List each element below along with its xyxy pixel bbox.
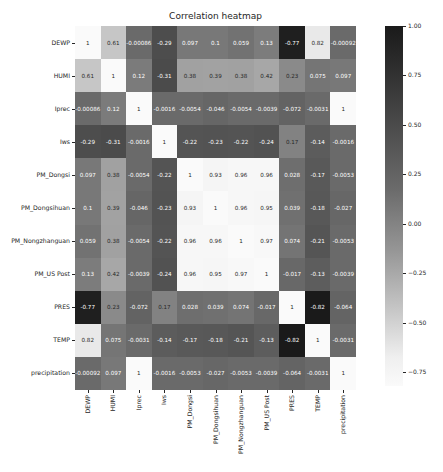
heatmap-cell: -0.0039: [126, 258, 152, 291]
colorbar-tick-label: −0.75: [408, 368, 426, 375]
y-tick-label: TEMP: [53, 336, 70, 343]
x-tick-label: PRES: [288, 395, 295, 411]
heatmap-cell: -0.064: [279, 357, 305, 390]
heatmap-cell: -0.17: [305, 158, 331, 191]
heatmap-cell: 0.12: [101, 92, 127, 125]
heatmap-cell: -0.00092: [75, 357, 101, 390]
heatmap-cell: -0.0053: [330, 158, 356, 191]
heatmap-cell: 0.38: [101, 158, 127, 191]
y-tick-label: PRES: [54, 303, 70, 310]
heatmap-cell: 0.38: [228, 59, 254, 92]
colorbar-tick: [403, 174, 406, 175]
heatmap-cell: 0.95: [254, 191, 280, 224]
heatmap-cell: -0.027: [330, 191, 356, 224]
colorbar-tick: [403, 372, 406, 373]
heatmap-cell: 0.039: [279, 191, 305, 224]
x-tick-label: PM_Dongsihuan: [212, 395, 219, 444]
heatmap-cell: -0.00086: [75, 92, 101, 125]
heatmap-cell: 0.097: [330, 59, 356, 92]
y-tick-label: PM_US Post: [34, 270, 70, 277]
x-tick-label: precipitation: [339, 395, 346, 434]
y-tick-label: precipitation: [31, 369, 70, 376]
colorbar-tick: [403, 125, 406, 126]
x-tick: [241, 390, 242, 393]
heatmap-cell: -0.0031: [126, 324, 152, 357]
heatmap-cell: -0.0039: [254, 92, 280, 125]
x-tick: [139, 390, 140, 393]
heatmap-cell: -0.31: [101, 125, 127, 158]
colorbar-tick: [403, 75, 406, 76]
heatmap-cell: -0.017: [254, 291, 280, 324]
heatmap-cell: -0.0031: [330, 324, 356, 357]
y-tick-label: PM_Dongsihuan: [21, 204, 70, 211]
heatmap-cell: 0.1: [203, 26, 229, 59]
heatmap-cell: -0.027: [203, 357, 229, 390]
heatmap-cell: 0.42: [101, 258, 127, 291]
heatmap-cell: -0.82: [279, 324, 305, 357]
colorbar-tick: [403, 323, 406, 324]
heatmap-cell: 1: [126, 92, 152, 125]
heatmap-cell: 0.12: [126, 59, 152, 92]
heatmap-cell: -0.17: [177, 324, 203, 357]
heatmap-cell: 0.039: [203, 291, 229, 324]
heatmap-cell: -0.13: [305, 258, 331, 291]
heatmap-cell: 0.61: [101, 26, 127, 59]
x-tick: [88, 390, 89, 393]
heatmap-cell: -0.017: [279, 258, 305, 291]
heatmap-cell: 0.95: [203, 258, 229, 291]
heatmap-cell: 0.17: [279, 125, 305, 158]
heatmap-cell: -0.046: [126, 191, 152, 224]
heatmap-cell: 0.074: [279, 225, 305, 258]
heatmap-cell: -0.82: [305, 291, 331, 324]
heatmap-cell: 0.96: [177, 258, 203, 291]
heatmap-cell: 0.96: [203, 225, 229, 258]
x-tick-label: TEMP: [314, 395, 321, 412]
heatmap-cell: 0.61: [75, 59, 101, 92]
heatmap-cell: 1: [254, 258, 280, 291]
colorbar-tick-label: 0.25: [408, 170, 421, 177]
heatmap-cell: -0.0031: [305, 357, 331, 390]
colorbar-tick: [403, 224, 406, 225]
heatmap-cell: 1: [279, 291, 305, 324]
chart-title: Correlation heatmap: [75, 11, 356, 21]
heatmap-cell: -0.23: [203, 125, 229, 158]
heatmap-cell: 0.97: [228, 258, 254, 291]
heatmap-cell: -0.22: [177, 125, 203, 158]
heatmap-cell: 0.39: [101, 191, 127, 224]
heatmap-cell: 1: [152, 125, 178, 158]
heatmap-cell: -0.0054: [177, 92, 203, 125]
heatmap-cell: -0.072: [279, 92, 305, 125]
colorbar: [385, 26, 403, 386]
x-tick: [216, 390, 217, 393]
heatmap-cell: 1: [330, 357, 356, 390]
heatmap-cell: -0.046: [203, 92, 229, 125]
heatmap-cell: -0.24: [254, 125, 280, 158]
y-tick-label: Iprec: [55, 105, 70, 112]
heatmap-cell: 0.097: [101, 357, 127, 390]
colorbar-tick-label: 1.00: [408, 22, 421, 29]
heatmap-cell: -0.22: [228, 125, 254, 158]
y-tick-label: HUMI: [54, 72, 70, 79]
heatmap-cell: -0.0039: [330, 258, 356, 291]
x-tick-label: PM_Dongsi: [186, 395, 193, 429]
heatmap-cell: 0.93: [203, 158, 229, 191]
heatmap-cell: -0.0053: [228, 357, 254, 390]
x-tick: [113, 390, 114, 393]
heatmap-cell: 0.17: [152, 291, 178, 324]
heatmap-cell: 1: [177, 158, 203, 191]
colorbar-tick-label: 0.00: [408, 220, 421, 227]
x-tick: [343, 390, 344, 393]
heatmap-cell: 0.93: [177, 191, 203, 224]
heatmap-cell: 0.96: [228, 191, 254, 224]
heatmap-cell: 0.82: [75, 324, 101, 357]
heatmap-cell: 0.028: [177, 291, 203, 324]
heatmap-cell: -0.064: [330, 291, 356, 324]
y-tick-label: PM_Dongsi: [36, 171, 70, 178]
y-tick-label: PM_Nongzhanguan: [11, 237, 70, 244]
heatmap-grid: 10.61-0.00086-0.290.0970.10.0590.13-0.77…: [75, 26, 356, 390]
heatmap-cell: -0.072: [126, 291, 152, 324]
heatmap-cell: 0.38: [177, 59, 203, 92]
x-tick: [318, 390, 319, 393]
heatmap-cell: -0.18: [305, 191, 331, 224]
heatmap-cell: 0.059: [75, 225, 101, 258]
